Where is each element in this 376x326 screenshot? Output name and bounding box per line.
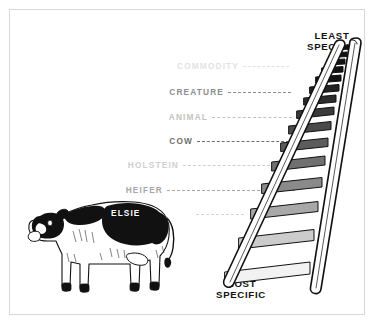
abstraction-ladder-diagram: ELSIE COMMODITY CREATURE ANIMAL COW HOLS… [0, 0, 376, 326]
cow-illustration [10, 10, 366, 316]
label-elsie: ELSIE [111, 208, 140, 219]
diagram-frame: ELSIE COMMODITY CREATURE ANIMAL COW HOLS… [9, 9, 365, 315]
